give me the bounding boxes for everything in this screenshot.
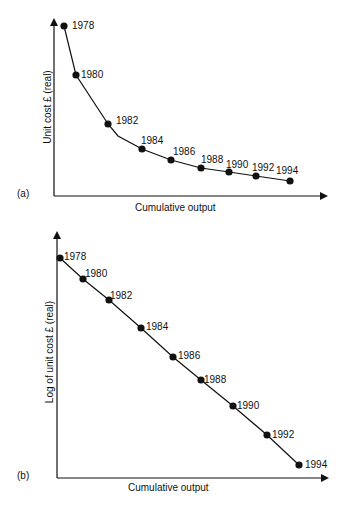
point-label-1982: 1982 bbox=[116, 115, 139, 126]
panel-a-tag: (a) bbox=[17, 188, 29, 199]
point-label-1982: 1982 bbox=[110, 290, 133, 301]
panel-a-points: 197819801982198419861988199019921994 bbox=[60, 20, 298, 185]
point-label-1978: 1978 bbox=[64, 251, 87, 262]
data-point-1994 bbox=[295, 461, 302, 468]
point-label-1984: 1984 bbox=[141, 135, 164, 146]
panel-a-curve bbox=[64, 26, 290, 181]
data-point-1992 bbox=[263, 431, 270, 438]
experience-curve-figure: 197819801982198419861988199019921994 (a)… bbox=[0, 0, 346, 515]
data-point-1980 bbox=[72, 71, 79, 78]
panel-a: 197819801982198419861988199019921994 (a)… bbox=[17, 20, 326, 213]
point-label-1992: 1992 bbox=[252, 162, 275, 173]
panel-b: 197819801982198419861988199019921994 (b)… bbox=[17, 233, 328, 493]
point-label-1986: 1986 bbox=[178, 350, 201, 361]
data-point-1992 bbox=[252, 172, 259, 179]
point-label-1980: 1980 bbox=[81, 69, 104, 80]
data-point-1978 bbox=[60, 22, 67, 29]
panel-b-x-label: Cumulative output bbox=[128, 482, 209, 493]
panel-b-line bbox=[60, 258, 299, 465]
data-point-1994 bbox=[286, 177, 293, 184]
point-label-1994: 1994 bbox=[305, 459, 328, 470]
panel-b-points: 197819801982198419861988199019921994 bbox=[56, 251, 327, 470]
point-label-1990: 1990 bbox=[226, 159, 249, 170]
point-label-1986: 1986 bbox=[173, 146, 196, 157]
data-point-1990 bbox=[229, 402, 236, 409]
data-point-1982 bbox=[104, 120, 111, 127]
point-label-1980: 1980 bbox=[85, 268, 108, 279]
point-label-1988: 1988 bbox=[201, 154, 224, 165]
point-label-1988: 1988 bbox=[204, 374, 227, 385]
point-label-1978: 1978 bbox=[72, 20, 95, 31]
panel-b-tag: (b) bbox=[17, 470, 29, 481]
data-point-1984 bbox=[138, 145, 145, 152]
point-label-1984: 1984 bbox=[146, 321, 169, 332]
panel-a-y-label: Unit cost £ (real) bbox=[42, 70, 53, 143]
point-label-1990: 1990 bbox=[237, 400, 260, 411]
point-label-1994: 1994 bbox=[276, 165, 299, 176]
data-point-1984 bbox=[137, 324, 144, 331]
data-point-1978 bbox=[56, 254, 63, 261]
data-point-1986 bbox=[167, 156, 174, 163]
point-label-1992: 1992 bbox=[272, 429, 295, 440]
panel-b-y-label: Log of unit cost £ (real) bbox=[44, 301, 55, 403]
data-point-1986 bbox=[169, 353, 176, 360]
panel-a-x-label: Cumulative output bbox=[135, 202, 216, 213]
data-point-1988 bbox=[197, 164, 204, 171]
